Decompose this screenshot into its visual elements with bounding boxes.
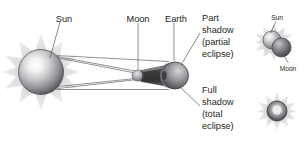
inset-label-moon: Moon bbox=[280, 65, 297, 72]
label-sun: Sun bbox=[56, 14, 72, 24]
eclipse-diagram-canvas: Sun Moon Earth Part shadow (partial ecli… bbox=[0, 0, 306, 142]
label-full-shadow-line3: (total bbox=[202, 109, 222, 119]
label-earth: Earth bbox=[165, 14, 187, 24]
inset-total-eclipse bbox=[257, 92, 297, 131]
inset-leader-moon bbox=[284, 56, 289, 64]
sun-sphere bbox=[19, 50, 64, 95]
earth-umbra-spot bbox=[162, 71, 166, 79]
inset-label-sun: Sun bbox=[271, 14, 283, 21]
leader-full-shadow bbox=[180, 87, 200, 106]
eclipse-diagram-figure: Sun Moon Earth Part shadow (partial ecli… bbox=[0, 0, 306, 142]
leader-part-shadow bbox=[181, 33, 200, 65]
main-moon-graphic bbox=[132, 70, 144, 81]
label-part-shadow-line4: eclipse) bbox=[202, 49, 234, 59]
inset-partial-moon-sphere bbox=[272, 38, 291, 57]
main-earth-graphic bbox=[160, 62, 189, 89]
label-part-shadow-line3: (partial bbox=[202, 37, 230, 47]
label-full-shadow-line1: Full bbox=[202, 85, 217, 95]
label-part-shadow-line2: shadow bbox=[202, 25, 234, 35]
main-sun-graphic bbox=[3, 34, 80, 110]
label-part-shadow-block: Part shadow (partial eclipse) bbox=[202, 13, 234, 59]
label-full-shadow-line2: shadow bbox=[202, 97, 234, 107]
inset-total-disk-core bbox=[272, 105, 281, 114]
label-part-shadow-line1: Part bbox=[202, 13, 219, 23]
inset-partial-eclipse: Sun Moon bbox=[254, 14, 296, 72]
label-moon: Moon bbox=[127, 14, 150, 24]
label-full-shadow-block: Full shadow (total eclipse) bbox=[202, 85, 234, 131]
label-full-shadow-line4: eclipse) bbox=[202, 121, 234, 131]
